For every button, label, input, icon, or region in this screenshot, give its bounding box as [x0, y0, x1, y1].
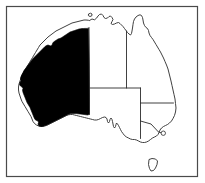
- melville-island: [88, 13, 92, 16]
- australia-map-figure: [0, 0, 205, 183]
- map-canvas: [0, 0, 205, 183]
- border-wa-east: [89, 28, 90, 115]
- map-markers-group: [161, 131, 165, 135]
- city-marker-circle: [161, 131, 165, 135]
